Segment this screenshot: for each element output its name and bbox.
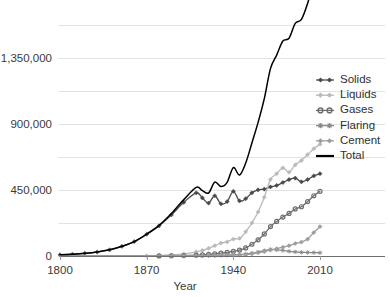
data-point-marker bbox=[305, 250, 309, 254]
data-point-marker bbox=[194, 191, 198, 195]
legend-label: Solids bbox=[340, 73, 372, 85]
legend-marker bbox=[327, 123, 332, 128]
data-point-marker bbox=[287, 177, 291, 181]
y-axis-tick-label: 450,000 bbox=[10, 184, 52, 196]
data-point-marker bbox=[299, 250, 303, 254]
data-point-marker bbox=[318, 172, 322, 176]
legend-marker bbox=[318, 93, 323, 98]
data-point-marker bbox=[231, 237, 235, 241]
chart-legend: SolidsLiquidsGasesFlaringCementTotal bbox=[316, 73, 381, 161]
data-point-marker bbox=[275, 183, 279, 187]
legend-label: Flaring bbox=[340, 119, 375, 131]
legend-item-solids[interactable]: Solids bbox=[316, 73, 372, 85]
data-point-marker bbox=[206, 246, 210, 250]
chart-container: 0450,000900,0001,350,000 180018701940201… bbox=[0, 0, 390, 297]
x-axis-tick-label: 2010 bbox=[307, 264, 333, 276]
data-point-marker bbox=[219, 241, 223, 245]
legend-marker bbox=[318, 77, 323, 82]
series-solids bbox=[58, 172, 322, 257]
data-point-marker bbox=[318, 251, 322, 255]
data-point-marker bbox=[213, 244, 217, 248]
legend-label: Total bbox=[340, 149, 364, 161]
y-axis-tick-labels: 0450,000900,0001,350,000 bbox=[1, 52, 52, 262]
legend-marker bbox=[318, 123, 323, 128]
legend-marker bbox=[327, 93, 332, 98]
data-point-marker bbox=[281, 180, 285, 184]
legend-marker bbox=[327, 138, 332, 143]
data-point-marker bbox=[299, 180, 303, 184]
x-axis-tick-label: 1870 bbox=[134, 264, 160, 276]
y-axis-tick-label: 1,350,000 bbox=[1, 52, 52, 64]
legend-label: Liquids bbox=[340, 88, 377, 100]
data-point-marker bbox=[293, 250, 297, 254]
legend-item-total[interactable]: Total bbox=[316, 149, 364, 161]
data-point-marker bbox=[256, 188, 260, 192]
legend-item-cement[interactable]: Cement bbox=[316, 134, 381, 146]
legend-marker bbox=[327, 77, 332, 82]
data-point-marker bbox=[262, 195, 266, 199]
series-liquids bbox=[60, 142, 322, 258]
x-axis-tick-label: 1800 bbox=[47, 264, 73, 276]
legend-label: Gases bbox=[340, 103, 373, 115]
y-axis-tick-label: 0 bbox=[46, 250, 52, 262]
data-point-marker bbox=[293, 241, 297, 245]
y-axis-tick-label: 900,000 bbox=[10, 118, 52, 130]
data-point-marker bbox=[281, 245, 285, 249]
emissions-line-chart: 0450,000900,0001,350,000 180018701940201… bbox=[0, 0, 390, 297]
data-point-marker bbox=[256, 210, 260, 214]
data-point-marker bbox=[225, 240, 229, 244]
legend-marker bbox=[318, 138, 323, 143]
data-point-marker bbox=[293, 176, 297, 180]
series-layer bbox=[58, 0, 322, 258]
series-line bbox=[60, 144, 320, 256]
legend-item-gases[interactable]: Gases bbox=[316, 103, 373, 115]
x-axis-tick-label: 1940 bbox=[221, 264, 247, 276]
data-point-marker bbox=[312, 250, 316, 254]
axes-layer bbox=[60, 256, 385, 260]
legend-label: Cement bbox=[340, 134, 381, 146]
x-axis-tick-labels: 1800187019402010 bbox=[47, 264, 333, 276]
data-point-marker bbox=[287, 244, 291, 248]
legend-item-liquids[interactable]: Liquids bbox=[316, 88, 377, 100]
data-point-marker bbox=[299, 240, 303, 244]
data-point-marker bbox=[287, 249, 291, 253]
series-line bbox=[60, 174, 320, 255]
data-point-marker bbox=[200, 248, 204, 252]
x-axis-title: Year bbox=[173, 280, 196, 292]
data-point-marker bbox=[268, 248, 272, 252]
data-point-marker bbox=[268, 185, 272, 189]
gridlines bbox=[58, 26, 385, 257]
